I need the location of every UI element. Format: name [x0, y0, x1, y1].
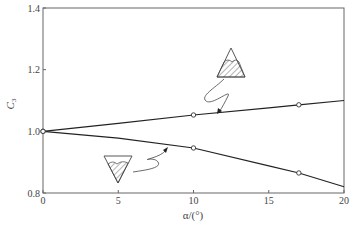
data-point-marker: [191, 113, 195, 117]
x-tick-label: 15: [264, 195, 274, 206]
inverted-triangle-icon: [104, 156, 132, 183]
data-point-marker: [297, 103, 301, 107]
upright-triangle-icon: [217, 48, 245, 77]
plot-frame: [43, 8, 344, 193]
x-tick-label: 5: [116, 195, 121, 206]
series-group: [41, 101, 344, 187]
x-tick-label: 10: [189, 195, 199, 206]
data-point-marker: [191, 146, 195, 150]
y-tick-label: 1.4: [28, 3, 41, 14]
x-tick-label: 0: [41, 195, 46, 206]
x-axis-label: α/(°): [183, 209, 204, 222]
y-tick-label: 1.2: [28, 64, 41, 75]
upper-leader-arrow: [205, 79, 229, 112]
data-point-marker: [41, 129, 45, 133]
y-axis-label: C3: [4, 98, 18, 109]
chart: 05101520 0.81.01.21.4 α/(°) C3: [0, 0, 354, 228]
series-line: [43, 131, 344, 187]
x-tick-label: 20: [339, 195, 349, 206]
svg-text:C3: C3: [4, 98, 18, 109]
y-tick-label: 1.0: [28, 126, 41, 137]
x-axis-ticks: 05101520: [41, 190, 350, 206]
lower-leader-arrow: [133, 150, 166, 172]
data-point-marker: [297, 171, 301, 175]
y-tick-label: 0.8: [28, 188, 41, 199]
